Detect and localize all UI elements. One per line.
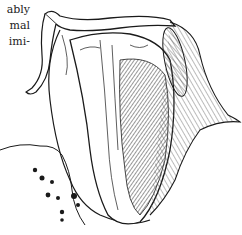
- text-line: ably: [0, 2, 30, 18]
- scanned-page: ably mal imi-: [0, 0, 242, 235]
- text-line: imi-: [0, 34, 30, 50]
- text-line: mal: [0, 18, 30, 34]
- anatomical-illustration: [0, 0, 242, 235]
- text-fragment: ably mal imi-: [0, 2, 30, 50]
